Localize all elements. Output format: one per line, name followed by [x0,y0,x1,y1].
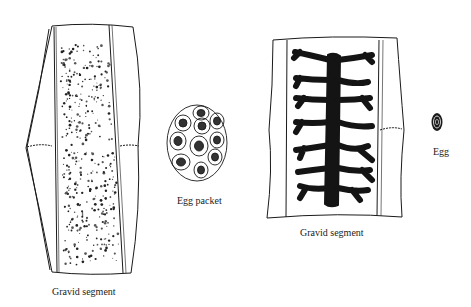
branched-uterus [294,52,372,206]
egg-label: Egg [433,146,449,157]
left-gravid-segment-drawing [26,24,140,274]
uterine-dots-pattern [60,44,119,266]
figure-canvas [0,0,471,307]
right-gravid-segment-label: Gravid segment [300,227,364,238]
left-gravid-segment-label: Gravid segment [52,286,116,297]
egg-packet-drawing [167,105,227,181]
egg-drawing [432,113,443,131]
egg-packet-label: Egg packet [177,195,222,206]
